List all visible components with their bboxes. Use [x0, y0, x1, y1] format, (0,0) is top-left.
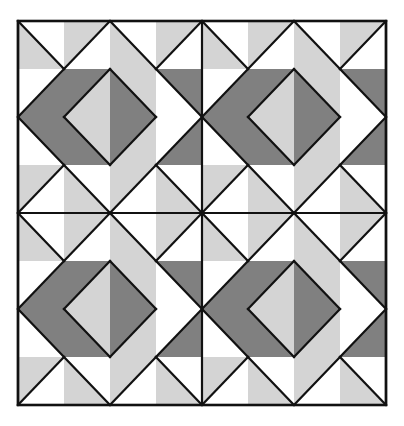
quilt-pattern-svg [0, 0, 404, 426]
quilt-figure [0, 0, 404, 426]
